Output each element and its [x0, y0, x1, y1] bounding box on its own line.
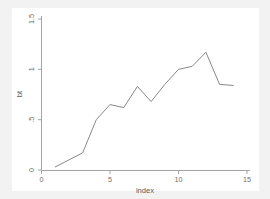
y-tick-label-1-5: 1.5: [27, 14, 36, 24]
x-tick-label-15: 15: [243, 175, 251, 184]
x-tick-label-10: 10: [175, 175, 183, 184]
y-axis-title: bt: [15, 90, 24, 97]
x-axis-title: index: [136, 186, 154, 195]
chart-figure: 0 .5 1 1.5 0 5 10 15 index bt: [0, 0, 270, 199]
x-tick-label-0: 0: [40, 175, 44, 184]
plot-panel-background: [12, 8, 259, 191]
chart-canvas: 0 .5 1 1.5 0 5 10 15 index bt: [0, 0, 270, 199]
y-tick-label-0: 0: [27, 168, 36, 172]
y-tick-label-0-5: .5: [27, 117, 36, 123]
x-tick-label-5: 5: [108, 175, 112, 184]
y-tick-label-1: 1: [27, 67, 36, 71]
